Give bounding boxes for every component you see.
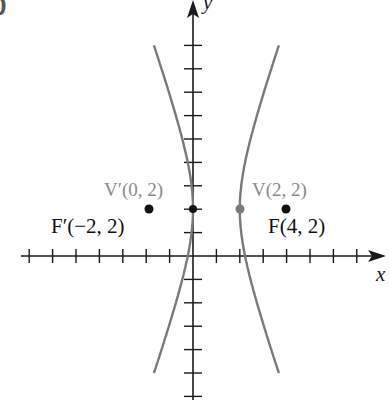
points: [145, 205, 291, 214]
y-axis-label: y: [201, 0, 213, 14]
label-f: F(4, 2): [268, 214, 325, 238]
axes: x y: [21, 0, 386, 400]
point-f: [282, 205, 291, 214]
point-f-prime: [145, 205, 154, 214]
label-f-prime: F′(−2, 2): [51, 214, 125, 238]
label-v-prime: V′(0, 2): [104, 179, 163, 201]
hyperbola-diagram: x y V′(0, 2) V(2, 2) F′(−2, 2) F(4, 2): [0, 0, 389, 413]
point-v-prime: [189, 205, 197, 213]
hyperbola-right-branch: [240, 45, 279, 373]
point-v: [236, 205, 245, 214]
x-axis-label: x: [375, 262, 386, 286]
label-v: V(2, 2): [252, 179, 307, 201]
